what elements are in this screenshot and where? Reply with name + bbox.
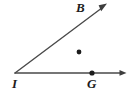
angle-diagram-figure: I B G: [0, 0, 133, 96]
vertex-label-I: I: [12, 77, 17, 90]
point-B-dot: [77, 50, 82, 55]
angle-diagram-canvas: [0, 0, 133, 96]
point-G-dot: [89, 70, 94, 75]
ray-IG-group: [15, 70, 127, 76]
ray-IG-arrowhead: [120, 70, 127, 76]
ray-IB-group: [15, 4, 107, 73]
point-label-B: B: [76, 1, 85, 14]
point-label-G: G: [87, 77, 96, 90]
ray-IB-line: [15, 8, 102, 73]
